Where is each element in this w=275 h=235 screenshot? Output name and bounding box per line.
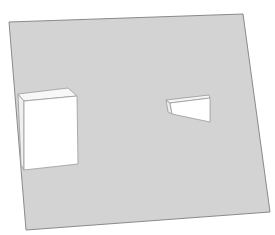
- tall-box: [18, 88, 78, 170]
- tall-box-front: [24, 96, 78, 170]
- 3d-scene: [0, 0, 275, 235]
